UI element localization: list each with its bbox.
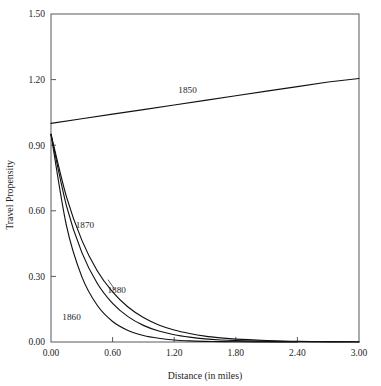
series-label-1850: 1850 — [178, 85, 197, 95]
x-tick-label: 2.40 — [289, 348, 306, 358]
x-tick-label: 1.20 — [166, 348, 183, 358]
x-tick-label: 1.80 — [227, 348, 244, 358]
y-axis-title: Travel Propensity — [4, 160, 15, 230]
y-tick-label: 0.90 — [28, 141, 45, 151]
travel-propensity-chart: 0.000.601.201.802.403.00 0.000.300.600.9… — [0, 0, 381, 386]
series-label-1870: 1870 — [76, 220, 95, 230]
chart-background — [0, 0, 381, 386]
y-tick-label: 1.50 — [28, 9, 45, 19]
series-label-1860: 1860 — [62, 312, 81, 322]
x-axis-title: Distance (in miles) — [168, 370, 243, 382]
y-tick-label: 0.30 — [28, 272, 45, 282]
y-tick-label: 0.60 — [28, 206, 45, 216]
chart-figure: 0.000.601.201.802.403.00 0.000.300.600.9… — [0, 0, 381, 386]
series-label-1880: 1880 — [108, 285, 127, 295]
y-tick-label: 0.00 — [28, 337, 45, 347]
x-tick-label: 0.00 — [43, 348, 60, 358]
x-tick-label: 3.00 — [351, 348, 368, 358]
y-tick-label: 1.20 — [28, 75, 45, 85]
x-tick-label: 0.60 — [104, 348, 121, 358]
